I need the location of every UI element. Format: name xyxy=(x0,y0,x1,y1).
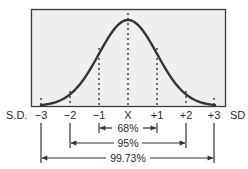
tick-label-minus-1: −1 xyxy=(93,109,106,121)
tick-label-plus-2: +2 xyxy=(180,109,193,121)
axis-label-left: S.D. xyxy=(6,109,27,121)
range-label-68: 68% xyxy=(117,122,138,134)
normal-distribution-diagram: S.D. −3 −2 −1 X +1 +2 +3 SD 68% 95% 99.7… xyxy=(0,0,248,169)
tick-label-plus-3: +3 xyxy=(208,109,221,121)
range-label-9973: 99.73% xyxy=(110,152,146,164)
tick-label-minus-3: −3 xyxy=(35,109,48,121)
tick-label-minus-2: −2 xyxy=(64,109,77,121)
tick-label-mean: X xyxy=(124,109,132,121)
axis-label-right: SD xyxy=(230,109,245,121)
range-label-95: 95% xyxy=(117,137,138,149)
tick-label-plus-1: +1 xyxy=(151,109,164,121)
